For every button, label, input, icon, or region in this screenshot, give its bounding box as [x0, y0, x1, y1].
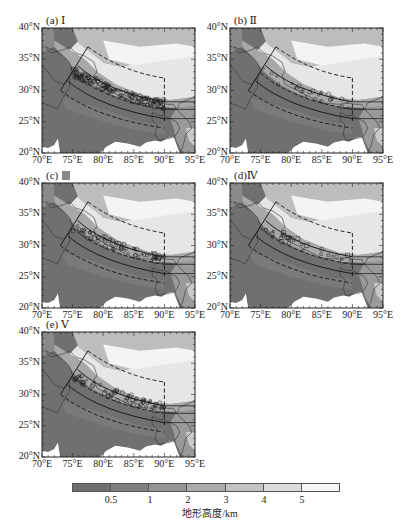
colorbar-segment [111, 484, 149, 491]
x-tick-label: 95°E [368, 309, 398, 320]
x-tick-label: 95°E [180, 458, 210, 469]
colorbar-title: 地形高度/km [170, 505, 250, 520]
x-tick-label: 90°E [149, 458, 179, 469]
x-tick-label: 95°E [368, 154, 398, 165]
x-tick-label: 90°E [149, 154, 179, 165]
colorbar-tick: 5 [292, 494, 312, 505]
colorbar-tick: 4 [254, 494, 274, 505]
x-tick-label: 75°E [246, 309, 276, 320]
colorbar-segment [149, 484, 187, 491]
colorbar-tick: 2 [178, 494, 198, 505]
x-tick-label: 70°E [215, 309, 245, 320]
colorbar-tick: 1 [140, 494, 160, 505]
x-tick-label: 80°E [88, 458, 118, 469]
x-tick-label: 80°E [276, 309, 306, 320]
y-tick-label: 25°N [4, 270, 40, 281]
colorbar-segment [302, 484, 339, 491]
y-tick-label: 30°N [192, 239, 228, 250]
x-tick-label: 90°E [337, 309, 367, 320]
colorbar-segment [264, 484, 302, 491]
y-tick-label: 40°N [4, 21, 40, 32]
panel-label: (e) Ⅴ [46, 318, 69, 331]
panel-label: (d)Ⅳ [234, 169, 258, 182]
colorbar-segment [73, 484, 111, 491]
colorbar-tick: 0.5 [101, 494, 121, 505]
y-tick-label: 25°N [4, 419, 40, 430]
y-tick-label: 35°N [192, 207, 228, 218]
colorbar-segment [187, 484, 225, 491]
x-tick-label: 80°E [276, 154, 306, 165]
y-tick-label: 30°N [4, 239, 40, 250]
map-panel-e: (e) Ⅴ40°N35°N30°N25°N20°N70°E75°E80°E85°… [2, 318, 197, 473]
colorbar-tick: 3 [216, 494, 236, 505]
y-tick-label: 40°N [192, 21, 228, 32]
map-panel-c: (c) 40°N35°N30°N25°N20°N70°E75°E80°E85°E… [2, 169, 197, 324]
map-panel-a: (a) Ⅰ40°N35°N30°N25°N20°N70°E75°E80°E85°… [2, 14, 197, 169]
x-tick-label: 70°E [27, 458, 57, 469]
colorbar [72, 483, 340, 492]
panel-label: (a) Ⅰ [46, 14, 65, 27]
map-plot [42, 332, 195, 457]
y-tick-label: 35°N [4, 52, 40, 63]
y-tick-label: 25°N [4, 115, 40, 126]
x-tick-label: 75°E [58, 154, 88, 165]
y-tick-label: 25°N [192, 115, 228, 126]
y-tick-label: 40°N [192, 176, 228, 187]
map-panel-b: (b) Ⅱ40°N35°N30°N25°N20°N70°E75°E80°E85°… [190, 14, 385, 169]
map-panel-d: (d)Ⅳ40°N35°N30°N25°N20°N70°E75°E80°E85°E… [190, 169, 385, 324]
y-tick-label: 40°N [4, 325, 40, 336]
panel-label: (b) Ⅱ [234, 14, 257, 27]
y-tick-label: 35°N [4, 207, 40, 218]
y-tick-label: 35°N [4, 356, 40, 367]
panel-label: (c) [46, 169, 70, 181]
y-tick-label: 30°N [192, 84, 228, 95]
map-plot [230, 28, 383, 153]
y-tick-label: 40°N [4, 176, 40, 187]
x-tick-label: 75°E [246, 154, 276, 165]
x-tick-label: 75°E [58, 458, 88, 469]
x-tick-label: 80°E [88, 154, 118, 165]
x-tick-label: 90°E [337, 154, 367, 165]
panel-label-glyph [62, 171, 70, 180]
y-tick-label: 30°N [4, 84, 40, 95]
y-tick-label: 25°N [192, 270, 228, 281]
y-tick-label: 30°N [4, 388, 40, 399]
x-tick-label: 85°E [119, 458, 149, 469]
x-tick-label: 85°E [307, 309, 337, 320]
x-tick-label: 85°E [119, 154, 149, 165]
map-plot [42, 183, 195, 308]
y-tick-label: 35°N [192, 52, 228, 63]
x-tick-label: 70°E [215, 154, 245, 165]
map-plot [230, 183, 383, 308]
x-tick-label: 70°E [27, 154, 57, 165]
x-tick-label: 85°E [307, 154, 337, 165]
map-plot [42, 28, 195, 153]
colorbar-segment [226, 484, 264, 491]
